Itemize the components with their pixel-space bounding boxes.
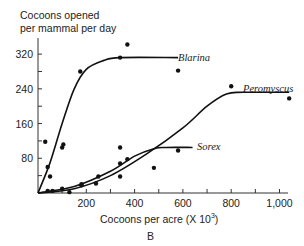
x-tick-label: 400 <box>126 197 144 209</box>
sorex-data-point <box>67 190 71 194</box>
peromyscus-data-point <box>287 96 291 100</box>
fitted-curves <box>38 57 289 193</box>
blarina-data-point <box>43 140 47 144</box>
data-points <box>43 42 291 194</box>
x-tick-label: 600 <box>174 197 192 209</box>
peromyscus-curve <box>38 92 289 193</box>
blarina-data-point <box>78 69 82 73</box>
peromyscus-data-point <box>118 161 122 165</box>
y-tick-label: 320 <box>15 48 33 60</box>
sorex-data-point <box>118 174 122 178</box>
sorex-data-point <box>94 181 98 185</box>
series-labels: BlarinaPeromyscusSorex <box>178 52 293 152</box>
blarina-data-point <box>176 68 180 72</box>
blarina-data-point <box>61 142 65 146</box>
x-tick-label: 200 <box>78 197 96 209</box>
peromyscus-data-point <box>50 189 54 193</box>
sorex-series-label: Sorex <box>197 141 221 152</box>
peromyscus-data-point <box>96 174 100 178</box>
blarina-data-point <box>45 165 49 169</box>
panel-label: B <box>147 230 154 242</box>
y-tick-label: 240 <box>15 83 33 95</box>
x-axis-label-close: ) <box>215 213 219 225</box>
axes: 2004006008001,00080160240320 <box>15 38 292 209</box>
sorex-data-point <box>176 148 180 152</box>
plot-area: 2004006008001,00080160240320 BlarinaPero… <box>0 0 304 246</box>
blarina-data-point <box>48 174 52 178</box>
sorex-data-point <box>79 183 83 187</box>
peromyscus-data-point <box>45 189 49 193</box>
peromyscus-data-point <box>152 166 156 170</box>
sorex-curve <box>38 147 193 193</box>
x-axis-label-text: Cocoons per acre (X 10 <box>100 213 211 225</box>
blarina-data-point <box>125 42 129 46</box>
peromyscus-data-point <box>60 186 64 190</box>
y-tick-label: 80 <box>21 152 33 164</box>
blarina-data-point <box>118 55 122 59</box>
x-axis-label: Cocoons per acre (X 103) <box>100 212 218 225</box>
blarina-series-label: Blarina <box>178 52 210 63</box>
peromyscus-series-label: Peromyscus <box>242 83 293 94</box>
x-tick-label: 1,000 <box>266 197 292 209</box>
sorex-data-point <box>118 145 122 149</box>
peromyscus-data-point <box>229 84 233 88</box>
peromyscus-data-point <box>125 157 129 161</box>
y-tick-label: 160 <box>15 118 33 130</box>
x-tick-label: 800 <box>222 197 240 209</box>
